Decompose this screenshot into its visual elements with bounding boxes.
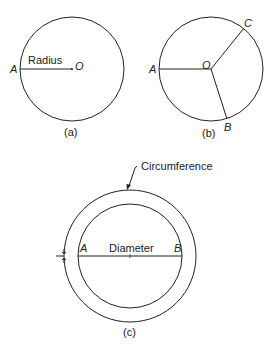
point-a-label: A: [9, 63, 17, 75]
figure-c: A B Diameter Circumference (c): [56, 160, 213, 338]
diameter-label: Diameter: [109, 242, 154, 254]
arrow-head-icon: [127, 184, 132, 190]
figure-a: Radius A O (a): [9, 17, 124, 138]
radius-label: Radius: [28, 54, 63, 66]
point-o-label: O: [75, 60, 84, 72]
caption-b: (b): [202, 127, 215, 139]
circle-diagram: Radius A O (a) A O C B (b) A B Diameter …: [0, 0, 275, 345]
radius-ob: [211, 69, 227, 119]
arrow-up-icon: [62, 258, 66, 263]
radius-oc: [211, 28, 244, 69]
point-c-label: C: [244, 17, 252, 29]
point-b-label: B: [174, 242, 181, 254]
point-b-label: B: [224, 121, 231, 133]
figure-b: A O C B (b): [148, 17, 263, 139]
arrow-down-icon: [62, 249, 66, 254]
point-o-label: O: [202, 59, 211, 71]
caption-c: (c): [123, 326, 136, 338]
center-dot: [71, 68, 73, 70]
point-a-label: A: [79, 242, 87, 254]
caption-a: (a): [64, 126, 77, 138]
circumference-label: Circumference: [141, 160, 213, 172]
circumference-leader: [129, 166, 137, 186]
point-a-label: A: [148, 63, 156, 75]
